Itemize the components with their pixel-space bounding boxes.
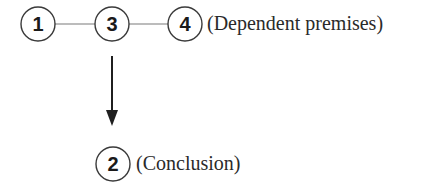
inference-arrow — [106, 56, 118, 126]
node-4: 4 — [168, 7, 202, 41]
conclusion-annotation: (Conclusion) — [136, 152, 240, 175]
node-1-number: 1 — [32, 13, 43, 35]
arrow-head-icon — [106, 110, 118, 126]
node-2-number: 2 — [107, 153, 118, 175]
node-3: 3 — [95, 7, 129, 41]
node-4-number: 4 — [179, 13, 191, 35]
node-3-number: 3 — [106, 13, 117, 35]
node-1: 1 — [21, 7, 55, 41]
node-2: 2 — [96, 147, 130, 181]
premises-annotation: (Dependent premises) — [207, 12, 383, 35]
argument-diagram: 1 3 4 (Dependent premises) 2 (Conclusion… — [0, 0, 426, 185]
